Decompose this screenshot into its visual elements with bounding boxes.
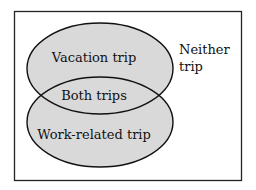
venn-diagram: Vacation trip Both trips Work-related tr… <box>0 0 256 190</box>
intersection-label: Both trips <box>61 88 127 103</box>
vacation-label: Vacation trip <box>51 50 137 65</box>
neither-label-line1: Neither <box>179 42 231 57</box>
neither-label-line2: trip <box>179 59 203 74</box>
work-label: Work-related trip <box>37 127 151 142</box>
